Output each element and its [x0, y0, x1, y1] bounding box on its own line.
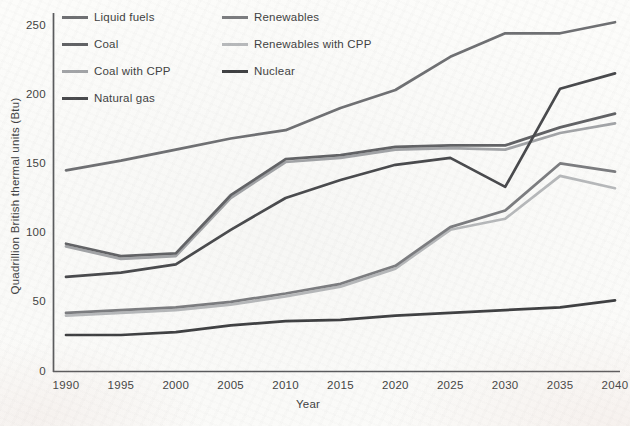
x-tick-label-2020: 2020 [373, 378, 417, 393]
legend-item-coal-with-cpp: Coal with CPP [62, 64, 171, 78]
y-tick-label-100: 100 [0, 225, 46, 240]
legend-swatch [222, 43, 248, 46]
legend-label: Renewables with CPP [254, 38, 372, 50]
legend-label: Natural gas [94, 92, 155, 104]
y-tick-label-0: 0 [0, 364, 46, 379]
legend-item-nuclear: Nuclear [222, 64, 295, 78]
legend-swatch [222, 16, 248, 19]
legend-swatch [62, 97, 88, 100]
x-tick-label-2010: 2010 [264, 378, 308, 393]
legend-label: Liquid fuels [94, 11, 155, 23]
y-tick-label-150: 150 [0, 156, 46, 171]
legend-item-renewables-with-cpp: Renewables with CPP [222, 37, 372, 51]
legend-item-liquid-fuels: Liquid fuels [62, 10, 155, 24]
chart-figure: Quadrillion British thermal units (Btu) … [0, 0, 630, 426]
series-line-coal-with-cpp [66, 123, 615, 259]
series-line-coal [66, 114, 615, 257]
x-tick-label-1995: 1995 [99, 378, 143, 393]
legend-swatch [62, 70, 88, 73]
y-axis-title: Quadrillion British thermal units (Btu) [9, 97, 21, 294]
x-tick-label-2040: 2040 [593, 378, 630, 393]
x-tick-label-2015: 2015 [319, 378, 363, 393]
x-axis-title: Year [278, 398, 338, 410]
legend-label: Coal [94, 38, 118, 50]
y-tick-label-200: 200 [0, 87, 46, 102]
legend-swatch [222, 70, 248, 73]
x-tick-label-2005: 2005 [209, 378, 253, 393]
x-tick-label-2030: 2030 [483, 378, 527, 393]
series-line-renewables [66, 163, 615, 313]
legend-item-coal: Coal [62, 37, 118, 51]
x-tick-label-2025: 2025 [428, 378, 472, 393]
legend-swatch [62, 43, 88, 46]
x-tick-label-2035: 2035 [538, 378, 582, 393]
series-line-nuclear [66, 300, 615, 335]
y-tick-label-250: 250 [0, 18, 46, 33]
legend-swatch [62, 16, 88, 19]
x-tick-label-2000: 2000 [154, 378, 198, 393]
legend-item-natural-gas: Natural gas [62, 91, 155, 105]
legend-label: Nuclear [254, 65, 295, 77]
legend-label: Renewables [254, 11, 319, 23]
y-tick-label-50: 50 [0, 294, 46, 309]
series-line-renewables-with-cpp [66, 176, 615, 316]
legend-label: Coal with CPP [94, 65, 171, 77]
legend-item-renewables: Renewables [222, 10, 319, 24]
x-tick-label-1990: 1990 [44, 378, 88, 393]
